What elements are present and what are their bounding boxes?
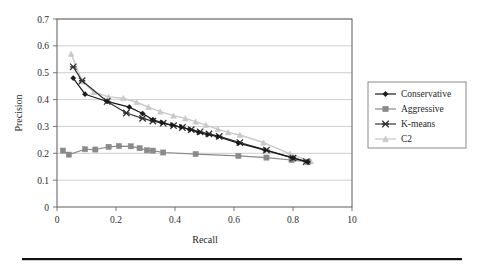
marker-square bbox=[264, 155, 269, 160]
marker-square bbox=[82, 147, 87, 152]
figure-container: 00.20.40.60.810 00.10.20.30.40.50.60.7 P… bbox=[0, 0, 484, 265]
legend-label: C2 bbox=[401, 134, 412, 144]
marker-square bbox=[161, 150, 166, 155]
marker-square bbox=[150, 148, 155, 153]
marker-square bbox=[144, 148, 149, 153]
marker-square bbox=[128, 144, 133, 149]
plot-frame bbox=[57, 19, 352, 207]
x-tick-label: 0.8 bbox=[287, 215, 299, 225]
y-tick-labels: 00.10.20.30.40.50.60.7 bbox=[37, 15, 49, 213]
bottom-rule bbox=[22, 258, 462, 260]
y-tick-label: 0.7 bbox=[37, 15, 49, 25]
marker-x bbox=[70, 64, 76, 70]
series-line bbox=[63, 146, 308, 162]
marker-diamond bbox=[262, 147, 267, 152]
marker-triangle bbox=[68, 51, 74, 57]
marker-square bbox=[116, 143, 121, 148]
marker-diamond bbox=[169, 122, 174, 127]
legend-label: Aggressive bbox=[401, 104, 444, 114]
y-tick-label: 0 bbox=[44, 203, 49, 213]
marker-square bbox=[66, 152, 71, 157]
data-series-group bbox=[60, 51, 313, 165]
marker-square bbox=[137, 146, 142, 151]
marker-square bbox=[236, 153, 241, 158]
y-axis-title: Precision bbox=[13, 94, 24, 131]
x-tick-label: 0.6 bbox=[228, 215, 240, 225]
tick-marks bbox=[53, 19, 352, 211]
legend-label: K-means bbox=[401, 119, 436, 129]
legend-label: Conservative bbox=[401, 89, 451, 99]
marker-square bbox=[193, 151, 198, 156]
marker-diamond bbox=[159, 120, 164, 125]
precision-recall-chart: 00.20.40.60.810 00.10.20.30.40.50.60.7 P… bbox=[0, 0, 484, 265]
y-tick-label: 0.3 bbox=[37, 122, 49, 132]
x-tick-label: 0.4 bbox=[169, 215, 181, 225]
chart-legend: ConservativeAggressiveK-meansC2 bbox=[368, 82, 466, 148]
marker-diamond bbox=[127, 104, 132, 109]
x-tick-label: 10 bbox=[347, 215, 357, 225]
x-tick-labels: 00.20.40.60.810 bbox=[55, 215, 357, 225]
marker-diamond bbox=[187, 127, 192, 132]
plot-area-border bbox=[57, 19, 352, 207]
y-tick-label: 0.4 bbox=[37, 95, 49, 105]
y-tick-label: 0.2 bbox=[37, 149, 49, 159]
y-tick-label: 0.1 bbox=[37, 176, 49, 186]
marker-square bbox=[60, 148, 65, 153]
marker-x bbox=[123, 110, 129, 116]
y-tick-label: 0.5 bbox=[37, 68, 49, 78]
marker-square bbox=[106, 144, 111, 149]
x-tick-label: 0.2 bbox=[110, 215, 122, 225]
marker-diamond bbox=[178, 124, 183, 129]
marker-diamond bbox=[215, 134, 220, 139]
x-axis-title: Recall bbox=[192, 234, 218, 245]
marker-square bbox=[383, 106, 388, 111]
marker-diamond bbox=[140, 111, 145, 116]
y-tick-label: 0.6 bbox=[37, 41, 49, 51]
marker-square bbox=[93, 147, 98, 152]
x-tick-label: 0 bbox=[55, 215, 60, 225]
